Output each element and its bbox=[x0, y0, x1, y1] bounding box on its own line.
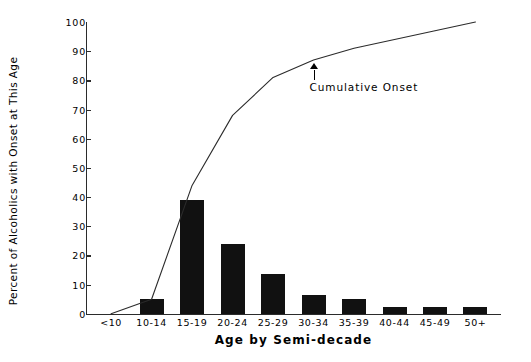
y-tick-mark bbox=[86, 80, 91, 81]
bar bbox=[302, 295, 326, 314]
y-tick-mark bbox=[86, 168, 91, 169]
bar bbox=[180, 200, 204, 314]
y-tick-label: 60 bbox=[52, 133, 86, 144]
x-axis-line bbox=[86, 314, 501, 315]
y-tick-mark bbox=[86, 255, 91, 256]
x-tick-label: 20-24 bbox=[217, 317, 248, 328]
x-tick-label: 25-29 bbox=[258, 317, 289, 328]
bar bbox=[463, 307, 487, 314]
bar bbox=[342, 299, 366, 314]
annotation-arrow-icon bbox=[310, 63, 318, 69]
x-axis-title: Age by Semi-decade bbox=[86, 333, 501, 347]
bar bbox=[261, 274, 285, 313]
y-tick-label: 40 bbox=[52, 192, 86, 203]
x-tick-label: 40-44 bbox=[379, 317, 410, 328]
y-tick-label: 20 bbox=[52, 250, 86, 261]
y-tick-label: 70 bbox=[52, 104, 86, 115]
x-tick-label: 45-49 bbox=[420, 317, 451, 328]
y-tick-label: 50 bbox=[52, 162, 86, 173]
y-tick-label: 10 bbox=[52, 279, 86, 290]
plot-area: 0102030405060708090100 <1010-1415-1920-2… bbox=[0, 0, 531, 362]
chart-figure: Percent of Alcoholics with Onset at This… bbox=[0, 0, 531, 362]
y-tick-mark bbox=[86, 285, 91, 286]
y-tick-label: 0 bbox=[52, 308, 86, 319]
y-tick-mark bbox=[86, 314, 91, 315]
annotation-label-cumulative-onset: Cumulative Onset bbox=[310, 81, 419, 93]
y-tick-label: 30 bbox=[52, 221, 86, 232]
y-tick-mark bbox=[86, 226, 91, 227]
y-tick-label: 80 bbox=[52, 75, 86, 86]
y-tick-label: 100 bbox=[52, 17, 86, 28]
x-tick-label: 10-14 bbox=[136, 317, 167, 328]
bar bbox=[140, 299, 164, 314]
x-tick-label: 15-19 bbox=[177, 317, 208, 328]
x-tick-label: 50+ bbox=[465, 317, 487, 328]
bar bbox=[383, 307, 407, 314]
y-tick-mark bbox=[86, 51, 91, 52]
bar bbox=[423, 307, 447, 314]
y-tick-mark bbox=[86, 197, 91, 198]
x-tick-label: 35-39 bbox=[339, 317, 370, 328]
y-tick-mark bbox=[86, 139, 91, 140]
cumulative-onset-line bbox=[111, 22, 475, 314]
x-tick-label: <10 bbox=[100, 317, 122, 328]
y-tick-label: 90 bbox=[52, 46, 86, 57]
y-tick-mark bbox=[86, 110, 91, 111]
annotation-leader-line bbox=[314, 70, 315, 80]
x-tick-label: 30-34 bbox=[298, 317, 329, 328]
bar bbox=[221, 244, 245, 314]
